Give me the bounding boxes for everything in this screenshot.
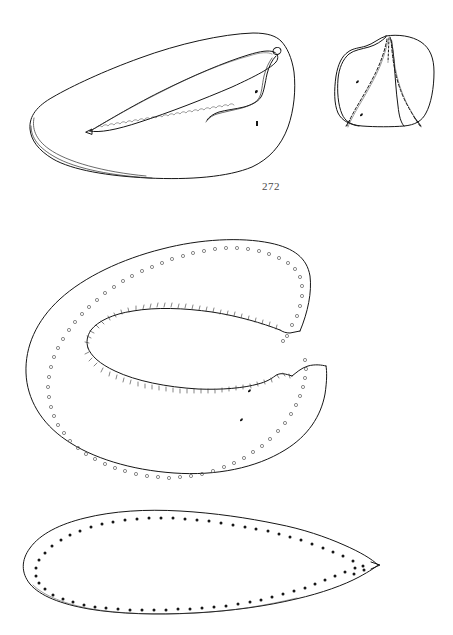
section-left-lobe: [338, 37, 386, 126]
horseshoe-mark-lower: [240, 418, 243, 421]
central-septum-left-shadow: [348, 40, 388, 127]
septum-contact-right: [414, 117, 421, 126]
inner-margin-hatching-lower: [85, 352, 290, 393]
horseshoe-mark-upper: [248, 389, 251, 392]
horseshoe-upper-terminus: [280, 330, 300, 333]
hinge-notch-inner: [206, 58, 272, 122]
interior-mark-upper: [255, 90, 258, 93]
horseshoe-outer-margin: [26, 240, 327, 474]
section-mark-lower: [360, 113, 363, 116]
figure-upper-left-valve: [30, 33, 295, 179]
median-septum-top: [388, 38, 389, 62]
inner-groove-secondary-line: [92, 53, 272, 130]
outer-outline-path: [30, 33, 295, 179]
horseshoe-lower-terminus: [292, 365, 326, 376]
figure-number-272: 272: [262, 180, 280, 192]
horseshoe-inner-lower-arm: [88, 348, 292, 389]
inner-groove-outline: [90, 51, 278, 132]
leaf-outer-outline: [23, 510, 378, 614]
leaf-apex-tip: [371, 562, 380, 569]
figure-lower-leaf: [23, 510, 380, 614]
horseshoe-inner-upper-arm: [87, 308, 280, 348]
pore-canal-circle-row: [46, 246, 307, 479]
hinge-loop: [272, 46, 282, 55]
marginal-dot-row: [35, 517, 366, 612]
plate-artwork: [0, 0, 453, 635]
valve-thickness-line-lower: [33, 118, 146, 176]
section-mark-upper: [356, 80, 359, 83]
interior-mark-lower: [256, 121, 258, 126]
illustration-plate: 272: [0, 0, 453, 635]
figure-middle-horseshoe: [26, 240, 327, 480]
figure-upper-right-cross-section: [335, 35, 434, 127]
central-septum-right-shadow: [392, 41, 421, 127]
